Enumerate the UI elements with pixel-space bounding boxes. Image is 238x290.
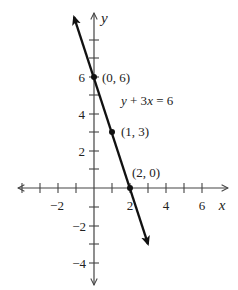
y-tick-label-2: 2 (79, 144, 86, 159)
y-tick-label-6: 6 (79, 70, 86, 85)
equation-label: y + 3x = 6 (119, 93, 174, 108)
point-0-6 (91, 74, 97, 80)
x-tick-label-4: 4 (163, 198, 170, 213)
point-1-3 (109, 129, 115, 135)
y-tick-label-neg4: −4 (72, 256, 86, 271)
y-axis: 6 4 2 −2 −4 y (72, 10, 108, 285)
point-label-2-0: (2, 0) (132, 165, 160, 180)
y-axis-label: y (99, 10, 108, 26)
equation-rhs: = 6 (153, 93, 174, 108)
point-label-1-3: (1, 3) (121, 124, 149, 139)
equation-plus-3: + 3 (127, 93, 147, 108)
x-axis-label: x (218, 197, 226, 213)
x-tick-label-6: 6 (199, 198, 206, 213)
x-tick-label-2: 2 (127, 198, 134, 213)
y-tick-label-4: 4 (79, 107, 86, 122)
y-tick-label-neg2: −2 (72, 219, 86, 234)
x-tick-label-neg2: −2 (50, 198, 64, 213)
point-label-0-6: (0, 6) (102, 70, 130, 85)
point-2-0 (127, 185, 133, 191)
coordinate-graph: −2 2 4 6 x 6 4 2 −2 −4 y (0, 0, 238, 290)
x-axis: −2 2 4 6 x (18, 183, 228, 213)
